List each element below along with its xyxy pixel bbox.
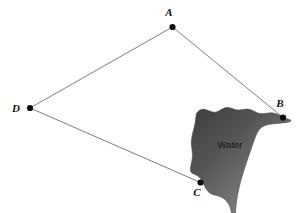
vertex-dot-d[interactable] [27, 105, 33, 111]
vertex-label-b: B [275, 97, 283, 109]
vertex-dot-b[interactable] [280, 114, 286, 120]
vertex-dot-c[interactable] [197, 179, 203, 185]
water-label: Water [218, 139, 243, 150]
survey-figure: Water A B C D [0, 0, 297, 213]
figure-background [0, 0, 297, 213]
vertex-label-d: D [11, 102, 20, 114]
vertex-dot-a[interactable] [169, 24, 175, 30]
vertex-label-c: C [193, 186, 201, 198]
vertex-label-a: A [164, 6, 172, 18]
